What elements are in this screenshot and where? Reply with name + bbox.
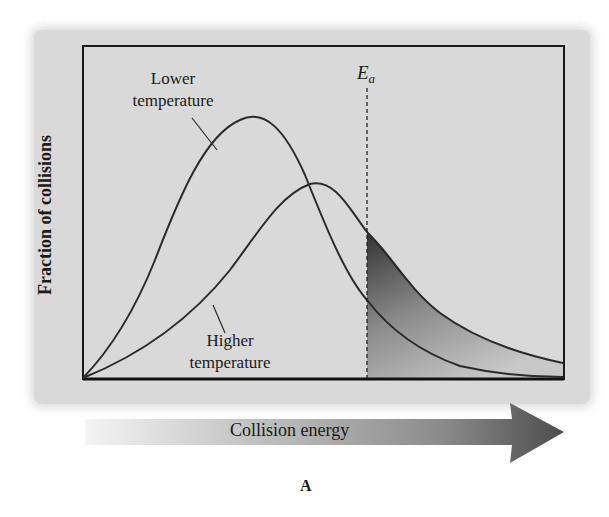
ea-label: Ea <box>357 62 375 87</box>
label-lower-line2: temperature <box>128 90 218 112</box>
label-higher-temperature: Higher temperature <box>180 330 280 374</box>
label-lower-line1: Lower <box>128 68 218 90</box>
label-higher-line2: temperature <box>180 352 280 374</box>
leader-line-lower <box>192 118 217 150</box>
label-lower-temperature: Lower temperature <box>128 68 218 112</box>
x-axis-label: Collision energy <box>230 420 349 441</box>
label-higher-line1: Higher <box>180 330 280 352</box>
y-axis-label: Fraction of collisions <box>35 135 56 295</box>
leader-line-higher <box>213 305 225 333</box>
ea-main: E <box>357 62 369 83</box>
panel-letter: A <box>300 477 312 495</box>
ea-subscript: a <box>369 71 376 86</box>
